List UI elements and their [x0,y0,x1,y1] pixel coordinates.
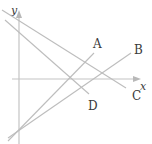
coordinate-diagram: y x A B C D [0,0,152,144]
lines [2,10,131,141]
line-labels: A B C D [88,37,143,113]
y-axis-label: y [10,4,18,17]
line-c [2,10,126,88]
label-d: D [88,99,98,113]
line-a [8,53,94,141]
label-b: B [134,43,143,57]
label-c: C [132,89,141,103]
line-b [8,53,131,138]
label-a: A [92,37,102,51]
